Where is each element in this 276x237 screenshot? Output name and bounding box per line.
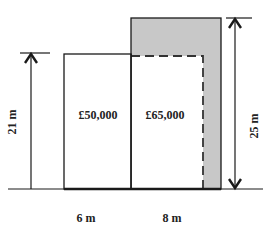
- left-height-label: 21 m: [5, 110, 19, 135]
- plot-b-value: £65,000: [146, 108, 185, 122]
- plot-b-interior: [132, 56, 203, 189]
- building-plots-diagram: 21 m 25 m £50,000 £65,000 6 m 8 m: [0, 0, 276, 237]
- plot-b-width: 8 m: [163, 211, 182, 225]
- right-height-label: 25 m: [247, 114, 261, 139]
- plot-a-width: 6 m: [77, 211, 96, 225]
- plot-a-value: £50,000: [79, 108, 118, 122]
